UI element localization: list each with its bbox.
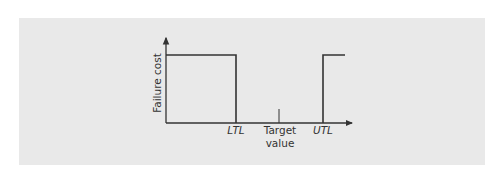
target-label-line1: Target (263, 124, 296, 136)
target-label-line2: value (266, 137, 295, 149)
y-axis-label: Failure cost (151, 53, 163, 113)
failure-cost-diagram: Failure cost LTL Target value UTL (0, 0, 499, 178)
utl-label: UTL (313, 124, 333, 136)
cost-step-left (166, 55, 236, 123)
ltl-label: LTL (227, 124, 245, 136)
cost-step-right (323, 55, 345, 123)
